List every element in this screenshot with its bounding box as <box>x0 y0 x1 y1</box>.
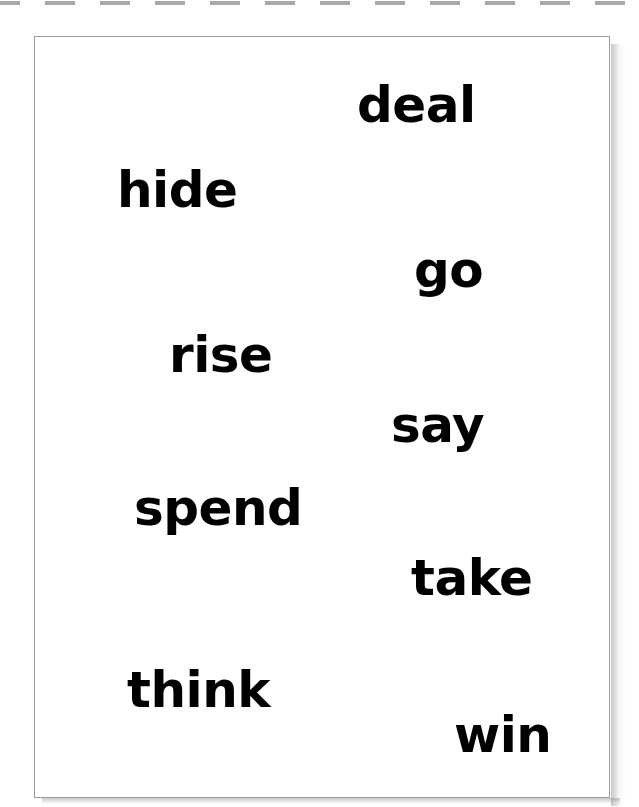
vocabulary-word: think <box>127 665 270 715</box>
dash-segment <box>540 1 570 5</box>
vocabulary-word: spend <box>134 483 302 533</box>
dash-segment <box>320 1 350 5</box>
vocabulary-word: rise <box>169 330 272 380</box>
dash-segment <box>100 1 130 5</box>
scanned-page: dealhidegorisesayspendtakethinkwin <box>0 0 639 807</box>
dash-segment <box>0 1 20 5</box>
vocabulary-word: go <box>414 245 483 295</box>
vocabulary-word: deal <box>357 80 476 130</box>
vocabulary-word: take <box>411 553 532 603</box>
vocabulary-word: say <box>391 400 484 450</box>
dash-segment <box>265 1 295 5</box>
dash-segment <box>45 1 75 5</box>
dash-segment <box>595 1 625 5</box>
vocabulary-word: win <box>454 710 551 760</box>
dash-segment <box>375 1 405 5</box>
word-list-card <box>34 36 610 798</box>
card-shadow-bottom <box>42 798 620 807</box>
dashed-cut-line <box>0 1 639 5</box>
dash-segment <box>485 1 515 5</box>
vocabulary-word: hide <box>117 165 237 215</box>
dash-segment <box>210 1 240 5</box>
dash-segment <box>430 1 460 5</box>
card-shadow-right <box>611 44 627 806</box>
dash-segment <box>155 1 185 5</box>
